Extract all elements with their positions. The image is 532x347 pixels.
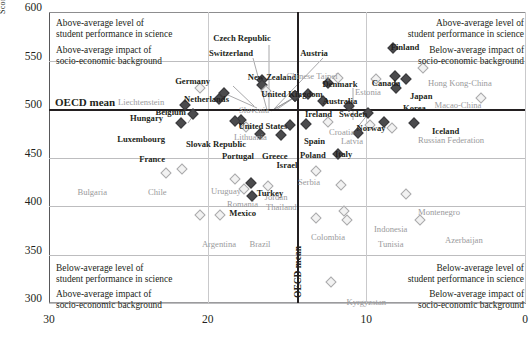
note-line: student performance in science bbox=[56, 274, 172, 285]
data-point-label: Russian Federation bbox=[418, 136, 484, 145]
data-point-label: Poland bbox=[300, 151, 326, 160]
data-point-label: Chinese Taipei bbox=[286, 72, 337, 81]
data-point-label: Azerbaijan bbox=[445, 236, 483, 245]
quadrant-note-top-right: Above-average level ofstudent performanc… bbox=[408, 18, 524, 67]
data-point-label: Spain bbox=[304, 137, 325, 146]
data-point-label: Japan bbox=[410, 92, 432, 101]
data-point-label: Israel bbox=[276, 161, 297, 170]
y-tick-label-550: 550 bbox=[8, 50, 42, 62]
data-point-label: Ireland bbox=[305, 110, 332, 119]
data-point-label: Slovak Republic bbox=[186, 140, 246, 149]
note-line: student performance in science bbox=[408, 274, 524, 285]
note-line: student performance in science bbox=[408, 29, 524, 40]
y-tick-label-600: 600 bbox=[8, 1, 42, 13]
science-performance-vs-socioeconomic-impact-scatter-chart: Score 600550500450400350300 3020100 Czec… bbox=[0, 0, 532, 347]
quadrant-note-top-left: Above-average level ofstudent performanc… bbox=[56, 18, 172, 67]
note-line: socio-economic background bbox=[56, 300, 172, 311]
note-line: Above-average impact of bbox=[56, 45, 172, 56]
note-line: Above-average level of bbox=[56, 18, 172, 29]
y-axis-title: Score bbox=[0, 0, 7, 14]
data-point-label: Estonia bbox=[355, 88, 381, 97]
data-point-label: United Kingdom bbox=[261, 90, 322, 99]
data-point-label: Tunisia bbox=[378, 240, 403, 249]
gridline-x-0 bbox=[525, 12, 526, 303]
data-point-label: Hungary bbox=[0, 114, 163, 123]
data-point-label: Macao-China bbox=[435, 101, 482, 110]
x-tick-label-10: 10 bbox=[346, 313, 386, 325]
note-line: Above-average level of bbox=[408, 18, 524, 29]
data-point-label: Turkey bbox=[257, 189, 283, 198]
data-point-label: United States bbox=[239, 122, 288, 131]
note-line: Below-average level of bbox=[408, 263, 524, 274]
data-point-label: Germany bbox=[0, 77, 210, 86]
data-point-label: Portugal bbox=[0, 152, 254, 161]
oecd-mean-vertical-label: OECD mean bbox=[293, 246, 303, 298]
data-point-label: Sweden bbox=[339, 110, 367, 119]
data-point-label: Indonesia bbox=[374, 225, 407, 234]
gridline-y-350 bbox=[49, 255, 525, 256]
oecd-mean-horizontal-label: OECD mean bbox=[55, 96, 115, 108]
note-line: socio-economic background bbox=[408, 300, 524, 311]
quadrant-note-bottom-right: Below-average level ofstudent performanc… bbox=[408, 263, 524, 312]
data-point-label: Austria bbox=[300, 49, 328, 58]
gridline-x-10 bbox=[366, 12, 367, 303]
data-point-label: Australia bbox=[323, 97, 357, 106]
x-tick-label-30: 30 bbox=[29, 313, 69, 325]
note-line: student performance in science bbox=[56, 29, 172, 40]
data-point-label: Czech Republic bbox=[213, 34, 271, 43]
data-point-label: Slovenia bbox=[239, 106, 269, 115]
data-point-label: Italy bbox=[335, 150, 352, 159]
data-point-label: Bulgaria bbox=[0, 188, 107, 197]
note-line: Below-average impact of bbox=[408, 45, 524, 56]
data-point-label: Thailand bbox=[266, 203, 297, 212]
gridline-y-600 bbox=[49, 12, 525, 13]
note-line: socio-economic background bbox=[56, 56, 172, 67]
data-point-label: Norway bbox=[356, 124, 385, 133]
data-point-label: Korea bbox=[403, 104, 426, 113]
data-point-label: Uruguay bbox=[211, 187, 241, 196]
note-line: Above-average impact of bbox=[56, 289, 172, 300]
note-line: socio-economic background bbox=[408, 56, 524, 67]
data-point-label: Colombia bbox=[0, 233, 345, 242]
note-line: Below-average impact of bbox=[408, 289, 524, 300]
data-point-label: Hong Kong-China bbox=[428, 79, 492, 88]
data-point-label: Mexico bbox=[0, 209, 256, 218]
data-point-label: Luxembourg bbox=[0, 135, 165, 144]
x-tick-label-0: 0 bbox=[505, 313, 532, 325]
x-tick-label-20: 20 bbox=[188, 313, 228, 325]
data-point-label: Latvia bbox=[341, 137, 363, 146]
note-line: Below-average level of bbox=[56, 263, 172, 274]
quadrant-note-bottom-left: Below-average level ofstudent performanc… bbox=[56, 263, 172, 312]
data-point-label: Chile bbox=[148, 188, 167, 197]
y-tick-label-350: 350 bbox=[8, 244, 42, 256]
data-point-label: Serbia bbox=[298, 178, 320, 187]
data-point-label: Switzerland bbox=[209, 49, 253, 58]
data-point-label: Montenegro bbox=[418, 208, 460, 217]
